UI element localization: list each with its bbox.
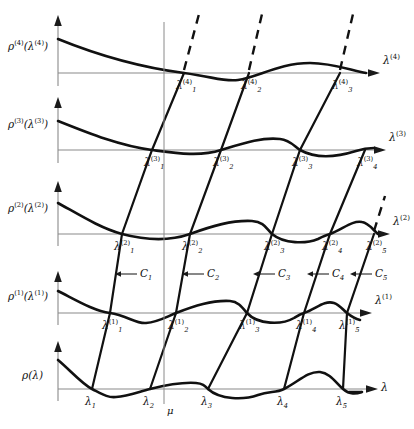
mu-label: μ (167, 406, 174, 416)
branch-label-c2: C2 (207, 268, 219, 282)
branch-curve-c5 (343, 234, 374, 389)
row-rho0-curve (58, 360, 362, 398)
root-label-rho3-1: λ(3)1 (144, 156, 164, 170)
root-label-rho4-2: λ(4)2 (241, 79, 261, 93)
root-label-rho1-1: λ(1)1 (102, 319, 122, 333)
y-axis-label-rho2: ρ(2)(λ(2)) (8, 202, 48, 213)
root-label-rho0-2: λ2 (143, 396, 154, 410)
row-rho1-y-arrowhead (54, 271, 62, 282)
root-label-rho2-4: λ(2)4 (322, 240, 342, 254)
root-label-rho0-1: λ1 (85, 396, 96, 410)
root-label-rho1-4: λ(1)4 (296, 319, 316, 333)
row-rho1-x-arrowhead (360, 309, 372, 317)
row-rho3-y-arrowhead (54, 97, 62, 108)
y-axis-label-rho3: ρ(3)(λ(3)) (8, 118, 48, 129)
root-label-rho3-4: λ(3)4 (357, 156, 377, 170)
root-label-rho4-1: λ(4)1 (176, 79, 196, 93)
row-rho4-x-arrowhead (368, 69, 380, 77)
branch-label-c3: C3 (278, 268, 290, 282)
branch-curve-c4 (284, 150, 365, 389)
branch-c2-dashed-top (249, 14, 262, 70)
branch-c3-dashed-top (340, 14, 353, 70)
figure-svg (0, 0, 414, 429)
row-rho3-curve (58, 121, 374, 156)
row-rho0-y-arrowhead (54, 341, 62, 352)
branch-label-c4: C4 (332, 268, 344, 282)
root-label-rho0-5: λ5 (336, 396, 347, 410)
y-axis-label-rho4: ρ(4)(λ(4)) (8, 40, 48, 51)
branch-c1-dashed-top (184, 14, 199, 70)
root-label-rho0-4: λ4 (277, 396, 288, 410)
root-label-rho1-2: λ(1)2 (168, 319, 188, 333)
y-axis-label-rho1: ρ(1)(λ(1)) (8, 290, 48, 301)
branch-label-c1: C1 (140, 268, 152, 282)
row-rho4-curve (58, 39, 366, 80)
root-label-rho1-3: λ(1)3 (239, 319, 259, 333)
row-rho4-y-arrowhead (54, 15, 62, 26)
branch-curve-c3 (208, 73, 340, 389)
y-axis-label-rho0: ρ(λ) (22, 370, 43, 381)
row-rho4 (54, 15, 380, 86)
root-label-rho2-3: λ(2)3 (264, 240, 284, 254)
x-axis-label-rho3: λ(3) (389, 130, 406, 143)
root-label-rho0-3: λ3 (201, 396, 212, 410)
root-label-rho2-2: λ(2)2 (182, 240, 202, 254)
root-label-rho1-5: λ(1)5 (339, 319, 359, 333)
root-label-rho3-2: λ(3)2 (213, 156, 233, 170)
branch-curve-c1 (92, 73, 184, 389)
root-label-rho3-3: λ(3)3 (292, 156, 312, 170)
root-label-rho4-3: λ(4)3 (332, 79, 352, 93)
row-rho0-x-arrowhead (366, 385, 378, 393)
root-label-rho2-5: λ(2)5 (366, 240, 386, 254)
row-rho2-y-arrowhead (54, 181, 62, 192)
row-rho2-x-arrowhead (378, 230, 390, 238)
branch-label-c5: C5 (375, 268, 387, 282)
row-rho3-x-arrowhead (374, 146, 386, 154)
x-axis-label-rho4: λ(4) (383, 53, 400, 66)
x-axis-label-rho0: λ (381, 382, 388, 393)
figure-canvas: ρ(4)(λ(4)) λ(4) λ(4)1 λ(4)2 λ(4)3 ρ(3)(λ… (0, 0, 414, 429)
x-axis-label-rho1: λ(1) (375, 293, 392, 306)
x-axis-label-rho2: λ(2) (393, 214, 410, 227)
root-label-rho2-1: λ(2)1 (114, 240, 134, 254)
branch-c4-dashed-top (374, 196, 385, 231)
